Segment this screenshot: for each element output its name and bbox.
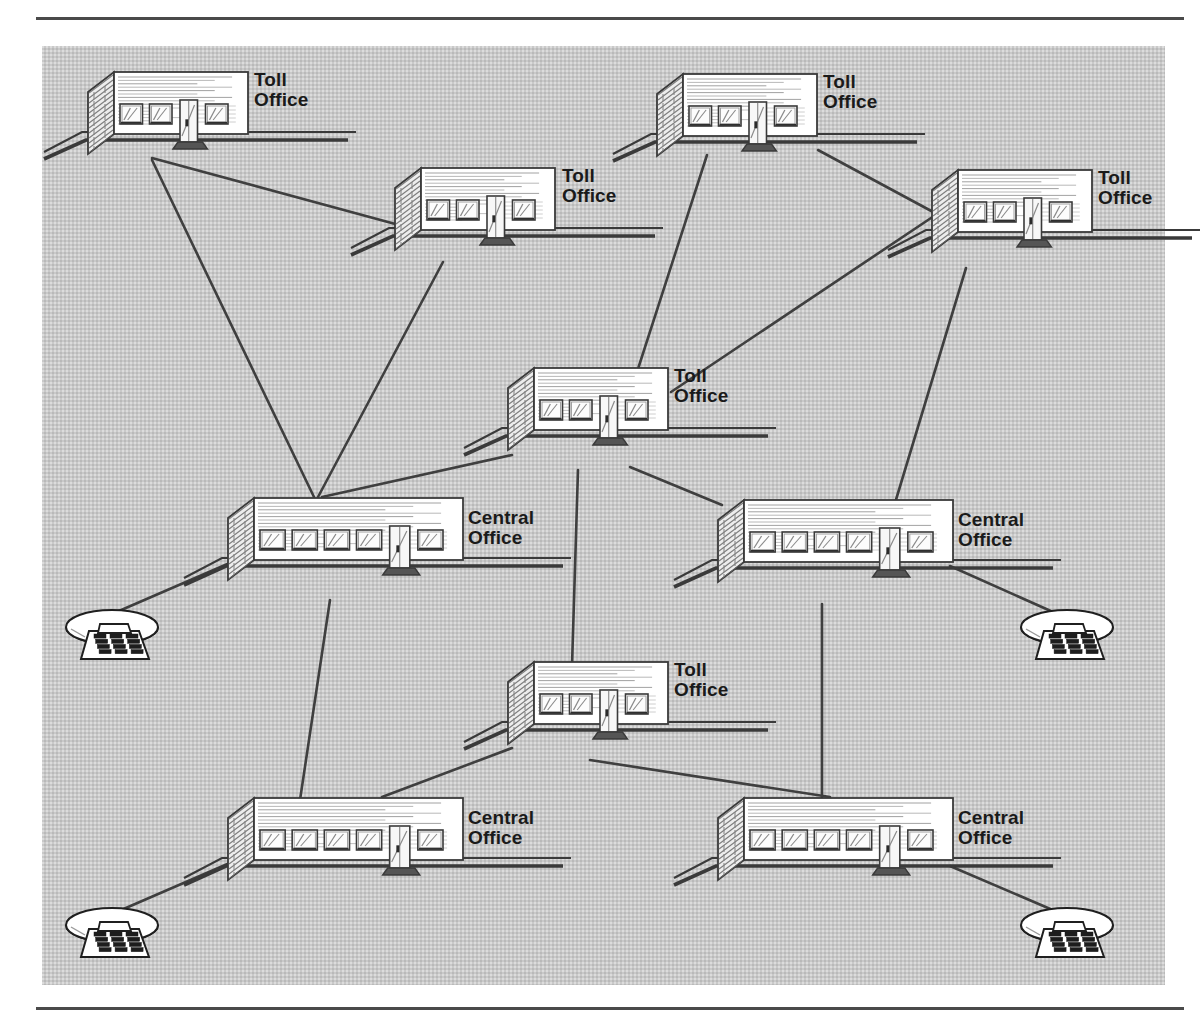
label-toll-6: Toll Office — [674, 660, 728, 700]
building-toll-1 — [44, 72, 356, 171]
figure-canvas: Toll OfficeToll OfficeToll OfficeToll Of… — [0, 0, 1201, 1033]
telephone-phone-4 — [1021, 908, 1113, 957]
building-toll-3 — [613, 74, 925, 173]
label-co-2: Central Office — [958, 510, 1024, 550]
label-toll-1: Toll Office — [254, 70, 308, 110]
building-toll-6 — [464, 662, 776, 761]
label-co-4: Central Office — [958, 808, 1024, 848]
link-co-1-to-co-3 — [300, 600, 330, 800]
link-toll-4-to-co-2 — [895, 268, 966, 503]
label-co-1: Central Office — [468, 508, 534, 548]
link-toll-2-to-co-1 — [318, 262, 443, 497]
label-toll-5: Toll Office — [674, 366, 728, 406]
link-toll-3-to-toll-4 — [818, 150, 935, 213]
link-toll-5-to-co-2 — [630, 467, 722, 505]
building-toll-4 — [888, 170, 1200, 269]
label-toll-3: Toll Office — [823, 72, 877, 112]
link-toll-3-to-toll-5 — [637, 155, 707, 372]
telephone-phone-1 — [66, 610, 158, 659]
link-toll-5-to-co-1 — [322, 455, 512, 497]
label-toll-2: Toll Office — [562, 166, 616, 206]
label-co-3: Central Office — [468, 808, 534, 848]
building-nodes — [44, 72, 1200, 897]
link-toll-5-to-toll-6 — [572, 470, 578, 666]
link-toll-6-to-co-3 — [382, 748, 512, 797]
link-toll-6-to-co-4 — [590, 760, 830, 797]
link-co-2-to-phone-2 — [950, 566, 1062, 616]
link-toll-1-to-co-1 — [152, 160, 314, 497]
label-toll-4: Toll Office — [1098, 168, 1152, 208]
telephone-phone-3 — [66, 908, 158, 957]
link-toll-1-to-toll-2 — [152, 158, 399, 225]
telephone-phone-2 — [1021, 610, 1113, 659]
link-co-4-to-phone-4 — [950, 866, 1062, 914]
building-toll-5 — [464, 368, 776, 467]
